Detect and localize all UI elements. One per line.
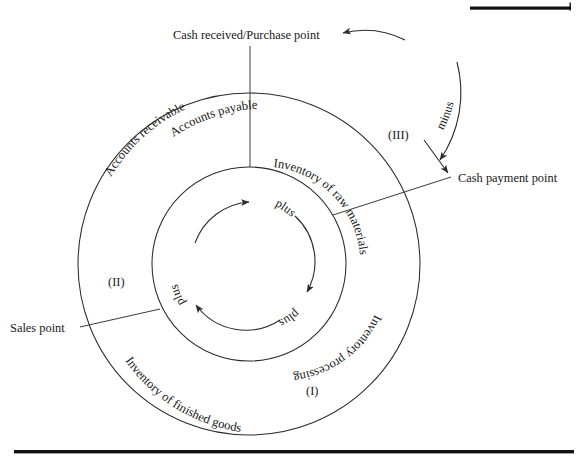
ring-label-inventory-processing: Inventory processing bbox=[292, 313, 385, 385]
sector-label-one: (I) bbox=[306, 384, 318, 398]
label-cash-payment-point: Cash payment point bbox=[458, 171, 558, 185]
inner-label-plus-left: plus bbox=[167, 283, 188, 308]
connector-label-minus: minus bbox=[433, 100, 456, 132]
operating-cycle-diagram: Accounts payable Accounts receivable Inv… bbox=[0, 0, 587, 468]
inner-arrow-to-plus-left bbox=[196, 305, 280, 330]
top-right-rule bbox=[470, 3, 571, 11]
inner-arrow-to-plus-top bbox=[195, 202, 249, 243]
sector-label-two: (II) bbox=[108, 275, 125, 289]
label-cash-received-purchase-point: Cash received/Purchase point bbox=[173, 28, 320, 42]
sector-label-three: (III) bbox=[388, 128, 409, 142]
inner-arrow-to-plus-bottom-right bbox=[295, 216, 315, 292]
cash-received-arrow bbox=[343, 30, 405, 40]
cash-payment-arrow bbox=[424, 140, 448, 173]
label-sales-point: Sales point bbox=[10, 321, 65, 335]
figure-canvas: Accounts payable Accounts receivable Inv… bbox=[0, 0, 587, 468]
ring-label-inventory-finished-goods: Inventory of finished goods bbox=[123, 354, 243, 435]
inner-label-plus-bottom-right: plus bbox=[277, 307, 303, 331]
bottom-rule bbox=[14, 450, 574, 453]
middle-circle bbox=[152, 167, 346, 361]
divider-sales-point bbox=[80, 309, 160, 327]
